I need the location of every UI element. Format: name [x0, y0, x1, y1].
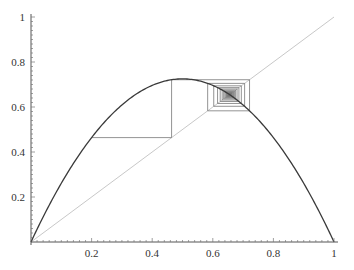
cobweb-path: [92, 80, 250, 138]
logistic-curve: [31, 79, 334, 242]
cobweb-plot: 0.20.40.60.810.20.40.60.81: [0, 0, 354, 270]
x-tick-label: 0.8: [267, 247, 281, 259]
x-tick-label: 0.2: [85, 247, 99, 259]
identity-line: [31, 17, 334, 242]
cobweb-path: [92, 80, 250, 138]
x-tick-label: 0.6: [206, 247, 220, 259]
logistic-curve: [31, 79, 334, 242]
identity-line: [31, 17, 334, 242]
y-tick-label: 0.4: [11, 146, 25, 158]
tick-labels: 0.20.40.60.810.20.40.60.81: [11, 11, 337, 259]
y-tick-label: 0.2: [11, 191, 25, 203]
y-tick-label: 0.8: [11, 56, 25, 68]
y-tick-label: 1: [20, 11, 26, 23]
y-tick-label: 0.6: [11, 101, 25, 113]
x-tick-label: 1: [331, 247, 337, 259]
x-tick-label: 0.4: [145, 247, 159, 259]
